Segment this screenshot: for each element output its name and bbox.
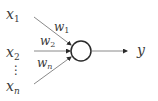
neuron-node bbox=[71, 41, 91, 61]
weight-w2-label: w2 bbox=[40, 34, 55, 49]
weight-wn-label: wn bbox=[37, 56, 52, 71]
input-x1-label: x1 bbox=[6, 6, 20, 24]
weight-w1-label: w1 bbox=[54, 20, 69, 35]
input-x2-label: x2 bbox=[6, 44, 20, 62]
output-y-label: y bbox=[136, 42, 146, 58]
input-xn-label: xn bbox=[6, 78, 20, 96]
perceptron-diagram: x1 x2 ⋮ xn w1 w2 wn y bbox=[0, 0, 158, 101]
input-ellipsis: ⋮ bbox=[10, 63, 22, 77]
